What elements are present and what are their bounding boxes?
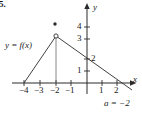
x-tick-label-neg1: −1 bbox=[65, 86, 75, 95]
y-tick-label-2: 2 bbox=[91, 54, 96, 63]
curve-falling-branch bbox=[56, 36, 132, 90]
y-axis bbox=[84, 3, 89, 94]
x-tick-label-pos2: 2 bbox=[114, 86, 119, 95]
y-tick-label-3: 3 bbox=[77, 34, 82, 43]
function-label: y = f(x) bbox=[5, 41, 32, 50]
filled-dot-point bbox=[53, 22, 56, 25]
x-axis-name: x bbox=[133, 75, 137, 84]
y-axis-name: y bbox=[93, 3, 97, 12]
x-tick-label-neg3: −3 bbox=[34, 86, 44, 95]
x-tick-label-neg4: −4 bbox=[19, 86, 29, 95]
y-tick-label-1: 1 bbox=[77, 66, 82, 75]
y-tick-label-4: 4 bbox=[77, 22, 82, 31]
figure-screenshot: 5. bbox=[0, 0, 142, 117]
parameter-label: a = −2 bbox=[104, 99, 130, 108]
open-circle-point bbox=[54, 34, 58, 38]
x-tick-label-pos1: 1 bbox=[99, 86, 104, 95]
x-tick-label-neg2: −2 bbox=[50, 86, 60, 95]
